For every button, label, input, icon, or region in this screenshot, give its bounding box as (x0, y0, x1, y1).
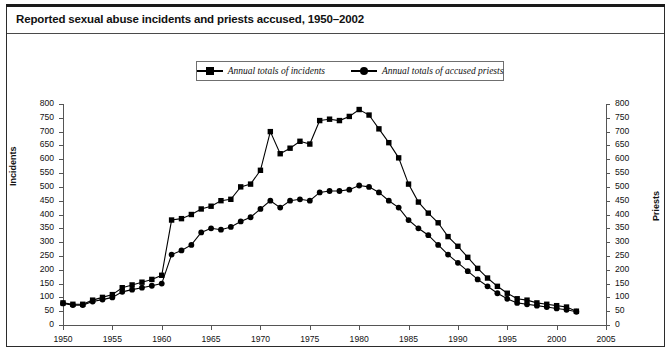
data-point-priests (100, 297, 106, 303)
y-tick-label-left: 150 (10, 278, 54, 288)
data-point-incidents (386, 140, 391, 145)
y-tick-label-left: 400 (10, 209, 54, 219)
data-point-incidents (228, 197, 233, 202)
y-tick-label-right: 700 (615, 126, 659, 136)
x-tick-label: 1970 (240, 334, 280, 344)
data-point-incidents (317, 118, 322, 123)
y-tick-label-right: 800 (615, 98, 659, 108)
data-point-priests (218, 227, 224, 233)
x-tick (507, 325, 508, 330)
data-point-priests (287, 198, 293, 204)
data-point-priests (514, 300, 520, 306)
data-point-priests (495, 290, 501, 296)
data-point-priests (406, 217, 412, 223)
data-point-incidents (366, 112, 371, 117)
x-tick (458, 325, 459, 330)
data-point-priests (119, 289, 125, 295)
data-point-incidents (278, 151, 283, 156)
data-point-incidents (495, 284, 500, 289)
data-point-priests (366, 184, 372, 190)
data-point-incidents (297, 139, 302, 144)
plot-area: 0501001502002503003504004505005506006507… (63, 104, 606, 325)
y-tick-right (606, 256, 610, 257)
y-tick-label-right: 600 (615, 153, 659, 163)
data-point-priests (109, 294, 115, 300)
legend-label-priests: Annual totals of accused priests (382, 66, 503, 76)
y-tick-label-right: 400 (615, 209, 659, 219)
legend-item-incidents: Annual totals of incidents (197, 66, 325, 76)
data-point-priests (277, 205, 283, 211)
y-tick-label-right: 350 (615, 222, 659, 232)
x-tick (606, 325, 607, 330)
y-tick-right (606, 132, 610, 133)
data-point-priests (475, 277, 481, 283)
y-tick-label-right: 100 (615, 291, 659, 301)
legend-item-priests: Annual totals of accused priests (351, 66, 503, 76)
y-tick-label-left: 450 (10, 195, 54, 205)
x-tick (557, 325, 558, 330)
x-tick (63, 325, 64, 330)
y-tick-right (606, 297, 610, 298)
data-point-priests (267, 198, 273, 204)
data-point-incidents (149, 277, 154, 282)
data-point-incidents (199, 206, 204, 211)
x-tick-label: 1960 (142, 334, 182, 344)
data-point-priests (573, 309, 579, 315)
y-tick-label-right: 500 (615, 181, 659, 191)
data-point-priests (534, 303, 540, 309)
data-point-priests (307, 198, 313, 204)
x-tick (359, 325, 360, 330)
data-point-priests (238, 219, 244, 225)
y-tick-label-left: 0 (10, 319, 54, 329)
data-point-incidents (139, 279, 144, 284)
y-tick-right (606, 187, 610, 188)
data-point-priests (60, 301, 66, 307)
x-tick-label: 1965 (191, 334, 231, 344)
y-tick-label-right: 650 (615, 139, 659, 149)
data-point-incidents (356, 107, 361, 112)
x-tick-label: 1955 (92, 334, 132, 344)
data-point-incidents (189, 212, 194, 217)
x-tick-label: 2005 (586, 334, 626, 344)
y-tick-label-right: 750 (615, 112, 659, 122)
y-tick-label-left: 750 (10, 112, 54, 122)
data-point-priests (564, 307, 570, 313)
data-point-priests (386, 198, 392, 204)
data-point-priests (346, 187, 352, 193)
data-point-incidents (485, 275, 490, 280)
x-tick (260, 325, 261, 330)
y-tick-right (606, 159, 610, 160)
x-tick (162, 325, 163, 330)
data-point-incidents (475, 266, 480, 271)
y-tick-label-right: 250 (615, 250, 659, 260)
data-point-incidents (435, 220, 440, 225)
data-point-incidents (337, 118, 342, 123)
x-tick-label: 1995 (487, 334, 527, 344)
y-tick-label-right: 150 (615, 278, 659, 288)
data-point-priests (435, 242, 441, 248)
data-point-incidents (287, 146, 292, 151)
y-tick-label-right: 550 (615, 167, 659, 177)
data-point-priests (465, 268, 471, 274)
y-tick-right (606, 215, 610, 216)
y-tick-label-left: 550 (10, 167, 54, 177)
data-point-priests (504, 296, 510, 302)
y-tick-label-left: 500 (10, 181, 54, 191)
y-tick-right (606, 145, 610, 146)
data-point-priests (149, 283, 155, 289)
data-point-incidents (307, 141, 312, 146)
y-tick-label-left: 600 (10, 153, 54, 163)
data-point-priests (179, 248, 185, 254)
data-point-priests (445, 252, 451, 258)
data-point-priests (198, 230, 204, 236)
data-point-priests (327, 188, 333, 194)
data-point-incidents (258, 168, 263, 173)
data-point-priests (159, 281, 165, 287)
y-tick-label-left: 300 (10, 236, 54, 246)
data-point-priests (169, 252, 175, 258)
data-point-incidents (208, 204, 213, 209)
data-point-priests (544, 304, 550, 310)
y-tick-label-left: 50 (10, 305, 54, 315)
data-point-priests (139, 285, 145, 291)
data-point-incidents (179, 216, 184, 221)
